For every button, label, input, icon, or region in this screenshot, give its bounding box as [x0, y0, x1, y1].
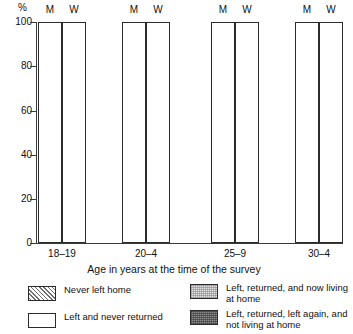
y-tick-mark [30, 22, 36, 23]
legend-swatch-left-never-returned [28, 313, 56, 328]
legend-swatch-returned-left-again [190, 310, 218, 325]
bar-w[interactable] [146, 22, 170, 243]
subgroup-label-m: M [211, 4, 235, 15]
legend-label: Left, returned, left again, and not livi… [226, 309, 353, 330]
y-tick-mark [30, 111, 36, 112]
x-category-label: 20–4 [101, 248, 191, 259]
legend-swatch-never-left-home [28, 286, 56, 301]
x-category-label: 18–19 [17, 248, 107, 259]
subgroup-label-m: M [295, 4, 319, 15]
subgroup-label-m: M [122, 4, 146, 15]
bar-w[interactable] [62, 22, 86, 243]
x-axis-title: Age in years at the time of the survey [0, 263, 348, 275]
subgroup-label-w: W [235, 4, 259, 15]
bar-group-20-4 [122, 22, 170, 243]
legend-swatch-returned-living-home [190, 284, 218, 299]
bar-m[interactable] [211, 22, 235, 243]
y-axis-line [36, 22, 37, 243]
subgroup-label-m: M [38, 4, 62, 15]
bar-m[interactable] [38, 22, 62, 243]
bar-group-30-4 [295, 22, 343, 243]
y-tick-mark [30, 66, 36, 67]
subgroup-label-w: W [146, 4, 170, 15]
bar-w[interactable] [319, 22, 343, 243]
bar-group-25-9 [211, 22, 259, 243]
legend-label: Left, returned, and now living at home [226, 283, 353, 304]
legend-label: Left and never returned [64, 312, 179, 323]
y-tick-mark [30, 155, 36, 156]
bar-m[interactable] [295, 22, 319, 243]
y-axis-unit-label: % [18, 2, 27, 13]
chart-legend: Never left home Left and never returned … [0, 282, 348, 334]
subgroup-label-w: W [319, 4, 343, 15]
x-axis-line [36, 243, 343, 244]
legend-label: Never left home [64, 285, 179, 296]
x-category-label: 30–4 [274, 248, 353, 259]
bar-w[interactable] [235, 22, 259, 243]
bar-m[interactable] [122, 22, 146, 243]
bar-group-18-19 [38, 22, 86, 243]
y-tick-mark [30, 199, 36, 200]
y-tick-mark [30, 243, 36, 244]
x-category-label: 25–9 [190, 248, 280, 259]
subgroup-label-w: W [62, 4, 86, 15]
